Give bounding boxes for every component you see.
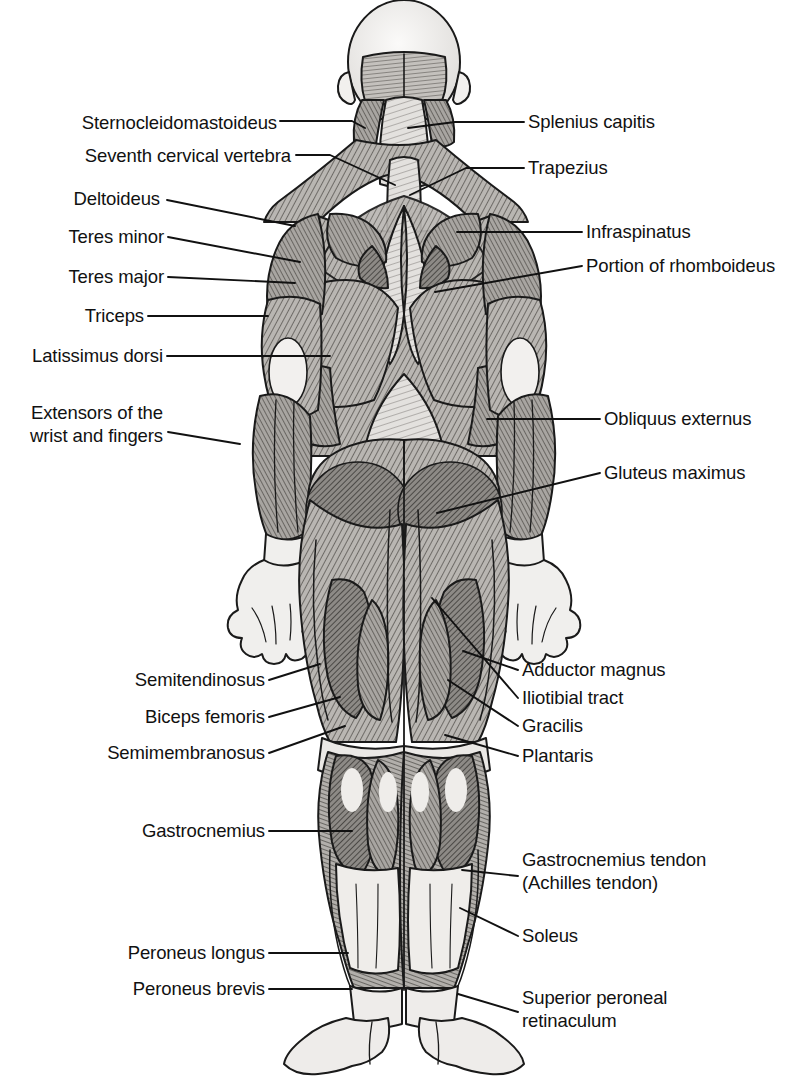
figure-page: SternocleidomastoideusSeventh cervical v… — [0, 0, 808, 1086]
label-extensors-wrist-fingers: Extensors of the wrist and fingers — [0, 401, 163, 447]
label-trapezius: Trapezius — [528, 156, 808, 179]
label-gluteus-maximus: Gluteus maximus — [604, 461, 808, 484]
label-splenius-capitis: Splenius capitis — [528, 110, 808, 133]
label-semimembranosus: Semimembranosus — [0, 741, 265, 764]
label-triceps: Triceps — [0, 304, 144, 327]
label-adductor-magnus: Adductor magnus — [522, 658, 808, 681]
label-plantaris: Plantaris — [522, 744, 808, 767]
leader-superior-peroneal — [458, 994, 518, 1012]
label-infraspinatus: Infraspinatus — [586, 220, 808, 243]
label-sternocleidomastoideus: Sternocleidomastoideus — [0, 111, 277, 134]
label-teres-minor: Teres minor — [0, 225, 164, 248]
feet-group — [284, 986, 524, 1074]
label-iliotibial-tract: Iliotibial tract — [522, 686, 808, 709]
label-deltoideus: Deltoideus — [0, 187, 160, 210]
label-obliquus-externus: Obliquus externus — [604, 407, 808, 430]
label-gracilis: Gracilis — [522, 714, 808, 737]
label-gastrocnemius-tendon: Gastrocnemius tendon (Achilles tendon) — [522, 848, 808, 894]
label-biceps-femoris: Biceps femoris — [0, 705, 265, 728]
label-seventh-cervical-vertebra: Seventh cervical vertebra — [0, 144, 291, 167]
figure-caption: Figure 8.8 Muscles of the posterior view — [0, 1072, 808, 1086]
label-peroneus-longus: Peroneus longus — [0, 941, 265, 964]
label-latissimus-dorsi: Latissimus dorsi — [0, 344, 163, 367]
label-teres-major: Teres major — [0, 265, 164, 288]
label-superior-peroneal-retinaculum: Superior peroneal retinaculum — [522, 986, 808, 1032]
label-soleus: Soleus — [522, 924, 808, 947]
label-peroneus-brevis: Peroneus brevis — [0, 977, 265, 1000]
label-semitendinosus: Semitendinosus — [0, 668, 265, 691]
label-gastrocnemius: Gastrocnemius — [0, 819, 265, 842]
leader-extensors — [168, 432, 240, 444]
label-portion-of-rhomboideus: Portion of rhomboideus — [586, 254, 808, 277]
leader-sternocleidomastoideus — [280, 121, 365, 128]
